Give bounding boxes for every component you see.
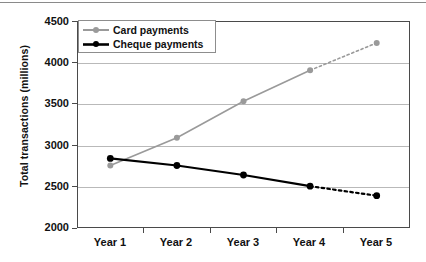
gridline-3500 (78, 104, 409, 105)
legend-label-cheque-payments: Cheque payments (113, 38, 203, 50)
y-tick-label-3500: 3500 (5, 97, 69, 109)
y-tick-mark-2000 (72, 228, 77, 229)
x-tick-label-year-2: Year 2 (143, 236, 209, 248)
x-tick-mark-3 (276, 228, 277, 233)
gridline-3000 (78, 146, 409, 147)
y-tick-mark-4500 (72, 21, 77, 22)
x-tick-mark-2 (210, 228, 211, 233)
legend-label-card-payments: Card payments (113, 24, 189, 36)
x-tick-label-year-5: Year 5 (343, 236, 409, 248)
gridline-2500 (78, 187, 409, 188)
x-tick-label-year-1: Year 1 (77, 236, 143, 248)
legend-item-card-payments: Card payments (79, 23, 215, 37)
legend-swatch-card-payments (79, 23, 113, 37)
x-tick-label-year-4: Year 4 (276, 236, 342, 248)
y-tick-label-2000: 2000 (5, 221, 69, 233)
chart-figure: Total transactions (millions) 4500 4000 … (0, 0, 426, 262)
header-divider (0, 2, 426, 3)
y-tick-mark-3500 (72, 103, 77, 104)
x-tick-mark-4 (343, 228, 344, 233)
y-tick-label-4500: 4500 (5, 15, 69, 27)
y-tick-mark-2500 (72, 186, 77, 187)
chart-legend: Card payments Cheque payments (78, 20, 216, 53)
x-tick-label-year-3: Year 3 (210, 236, 276, 248)
legend-swatch-cheque-payments (79, 37, 113, 51)
y-tick-label-3000: 3000 (5, 139, 69, 151)
legend-item-cheque-payments: Cheque payments (79, 37, 215, 51)
y-tick-label-4000: 4000 (5, 56, 69, 68)
gridline-4000 (78, 63, 409, 64)
y-tick-mark-4000 (72, 62, 77, 63)
y-tick-label-2500: 2500 (5, 180, 69, 192)
x-tick-mark-1 (143, 228, 144, 233)
y-tick-mark-3000 (72, 145, 77, 146)
